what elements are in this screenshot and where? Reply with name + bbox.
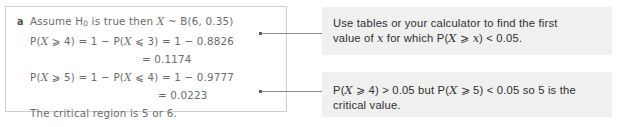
note-tables-hint: Use tables or your calculator to find th… (322, 7, 612, 55)
math-relation: ⩾ (456, 32, 472, 45)
note-line: P(X ⩾ 4) > 0.05 but P(X ⩾ 5) < 0.05 so 5… (333, 83, 606, 98)
math-text: ⩾ 4) > 0.05 but P( (353, 84, 449, 96)
connector-upper-line (261, 33, 323, 34)
math-text: ⩾ 5) < 0.05 so 5 is the (457, 84, 576, 96)
math-variable: X (124, 35, 132, 47)
connector-lower-line (261, 91, 323, 92)
note-line: critical value. (333, 98, 606, 113)
solution-line-prob-ge-5: P(X ⩾ 5) = 1 − P(X ⩽ 4) = 1 − 0.9777 (30, 72, 234, 83)
math-variable: X (124, 71, 132, 83)
math-variable: X (345, 83, 353, 97)
note-line: value of x for which P(X ⩾ x) < 0.05. (333, 31, 606, 46)
math-text: = 0.0223 (158, 89, 208, 101)
math-text: Use tables or your calculator to find th… (333, 17, 558, 29)
part-label: a (17, 17, 23, 27)
solution-line-prob-ge-4: P(X ⩾ 4) = 1 − P(X ⩽ 3) = 1 − 0.8826 (30, 36, 234, 47)
solution-line-conclusion: The critical region is 5 or 6. (30, 108, 177, 118)
note-line: Use tables or your calculator to find th… (333, 16, 606, 31)
math-text: ⩾ 4) = 1 − P( (48, 35, 124, 47)
math-variable: X (157, 15, 165, 27)
math-text: P( (333, 84, 345, 96)
note-tables-hint-text: Use tables or your calculator to find th… (333, 16, 606, 46)
solution-line-result-0223: = 0.0223 (30, 90, 208, 100)
worked-solution-box: a Assume H0 is true then X ~ B(6, 0.35) … (5, 6, 287, 112)
note-critical-value: P(X ⩾ 4) > 0.05 but P(X ⩾ 5) < 0.05 so 5… (322, 72, 612, 117)
math-text: ⩾ 5) = 1 − P( (48, 71, 124, 83)
math-text: ) < 0.05. (479, 32, 522, 44)
math-text: critical value. (333, 99, 401, 111)
math-text: P( (30, 35, 41, 47)
note-critical-value-text: P(X ⩾ 4) > 0.05 but P(X ⩾ 5) < 0.05 so 5… (333, 83, 606, 113)
math-text: = 0.1174 (142, 53, 192, 65)
math-text: ⩽ 3) = 1 − 0.8826 (132, 35, 234, 47)
worked-solution-content: a Assume H0 is true then X ~ B(6, 0.35) … (6, 7, 286, 111)
math-text: ⩽ 4) = 1 − 0.9777 (132, 71, 234, 83)
math-text: ~ B(6, 0.35) (165, 15, 234, 27)
math-text: The critical region is 5 or 6. (30, 107, 177, 119)
math-text: P( (30, 71, 41, 83)
solution-line-result-1174: = 0.1174 (30, 54, 192, 64)
math-text: Assume H (30, 15, 83, 27)
math-text: is true then (88, 15, 157, 27)
solution-line-assumption: Assume H0 is true then X ~ B(6, 0.35) (30, 16, 233, 28)
math-text: for which P( (384, 32, 449, 44)
math-text: value of (333, 32, 377, 44)
